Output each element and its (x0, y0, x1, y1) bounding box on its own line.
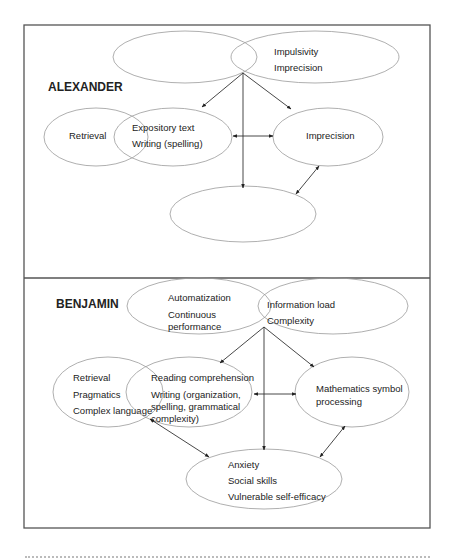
ellipse-label: Automatization (168, 292, 231, 303)
arrow-group (202, 73, 319, 194)
ellipse-group: ImpulsivityImprecisionRetrievalExpositor… (44, 31, 399, 242)
ellipse-label: Retrieval (73, 372, 111, 383)
ellipse-label: Imprecision (274, 62, 323, 73)
bottom-empty-ellipse (170, 186, 316, 242)
ellipse-label: Social skills (228, 475, 277, 486)
bidirectional-arrow-icon (150, 419, 209, 457)
top-right-ellipse (231, 31, 399, 83)
ellipse-label: Writing (spelling) (132, 138, 203, 149)
ellipse-label: Writing (organization, (151, 389, 241, 400)
ellipse-label: Information load (267, 299, 335, 310)
bidirectional-arrow-icon (320, 426, 345, 457)
ellipse-label: Vulnerable self-efficacy (228, 491, 326, 502)
ellipse-label: Reading comprehension (151, 372, 254, 383)
arrow-icon (202, 73, 243, 107)
ellipse-label: Continuous (168, 309, 216, 320)
ellipse-label: Retrieval (69, 130, 107, 141)
panel-benjamin: BENJAMIN AutomatizationContinuousperform… (53, 278, 409, 509)
ellipse-label: performance (168, 321, 221, 332)
ellipse-label: Expository text (132, 122, 195, 133)
ellipse-label: Anxiety (228, 459, 259, 470)
top-left-ellipse (113, 31, 257, 83)
ellipse-label: Impulsivity (274, 46, 319, 57)
ellipse-label: Imprecision (306, 130, 355, 141)
clipped-caption (25, 552, 430, 558)
arrow-icon (220, 327, 264, 363)
ellipse-label: complexity) (151, 413, 199, 424)
panel-alexander: ALEXANDER ImpulsivityImprecisionRetrieva… (44, 31, 399, 242)
ellipse-label: spelling, grammatical (151, 401, 240, 412)
panel-title-alexander: ALEXANDER (48, 80, 123, 94)
ellipse-group: AutomatizationContinuousperformanceInfor… (53, 278, 409, 509)
expository-ellipse (114, 108, 232, 166)
diagram-canvas: ALEXANDER ImpulsivityImprecisionRetrieva… (0, 0, 451, 558)
arrow-icon (264, 327, 314, 367)
bidirectional-arrow-icon (296, 166, 319, 194)
panel-title-benjamin: BENJAMIN (56, 297, 119, 311)
ellipse-label: Pragmatics (73, 389, 121, 400)
ellipse-label: Complexity (267, 315, 314, 326)
ellipse-label: processing (316, 396, 362, 407)
ellipse-label: Mathematics symbol (316, 383, 403, 394)
